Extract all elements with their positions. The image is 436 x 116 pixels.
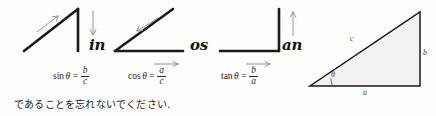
triangle-angle-label: θ [331,70,335,79]
formula-cosine-numerator: a [157,66,166,77]
formula-cosine-denominator: c [157,77,166,87]
formula-tangent-equals: = [239,71,249,81]
sine-letters: in [89,36,105,54]
cosine-letters: os [190,36,208,54]
formula-cosine-function: cos [128,71,141,81]
triangle-base-label: a [363,88,367,97]
formula-tangent-theta: θ [233,71,239,81]
formula-sine-fraction: bc [81,66,90,88]
sine-glyph-icon [22,6,92,54]
formula-tangent-function: tan [221,71,233,81]
formula-tangent-denominator: a [249,77,258,87]
triangle-vertical-label: b [423,48,427,57]
tangent-letters: an [282,36,302,54]
cosine-glyph-icon [113,6,193,54]
formula-tangent-fraction: ba [249,66,258,88]
formula-tangent-numerator: b [249,66,258,77]
formula-sine-equals: = [70,71,80,81]
mnemonic-cosine [113,6,193,54]
formula-sine-denominator: c [81,77,90,87]
formula-sine: sinθ=bc [53,66,89,88]
formula-cosine-equals: = [147,71,157,81]
formula-cosine-fraction: ac [157,66,166,88]
formula-sine-function: sin [53,71,64,81]
formula-tangent: tanθ=ba [221,66,258,88]
formula-cosine-theta: θ [141,71,147,81]
mnemonic-sine [22,6,92,54]
figure-canvas: in os an sinθ=bc [0,0,436,116]
formula-sine-numerator: b [81,66,90,77]
reference-triangle: c b a θ [306,8,428,94]
triangle-hypotenuse-label: c [350,34,354,43]
reference-triangle-icon [306,8,428,94]
formula-cosine: cosθ=ac [128,66,166,88]
caption-text: であることを忘れないでください. [14,96,170,111]
